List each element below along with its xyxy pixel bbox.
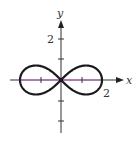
lemniscate-graph: x y 2 2 (0, 0, 140, 142)
x-axis-arrow-icon (116, 77, 124, 83)
x-tick-label-2: 2 (103, 87, 110, 100)
x-axis-label: x (126, 74, 133, 87)
y-axis-arrow-icon (58, 20, 64, 28)
y-tick-label-2: 2 (47, 33, 54, 46)
y-axis-label: y (56, 7, 64, 20)
origin-point (59, 78, 63, 82)
